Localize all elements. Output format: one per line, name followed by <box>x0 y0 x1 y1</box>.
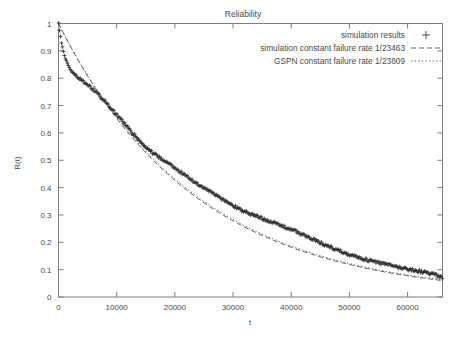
x-tick-label: 20000 <box>164 303 187 312</box>
y-tick-label: 0.2 <box>40 238 52 247</box>
y-tick-label: 0.8 <box>40 74 52 83</box>
y-tick-label: 0 <box>47 293 52 302</box>
y-tick-label: 0.4 <box>40 184 52 193</box>
x-tick-label: 0 <box>56 303 61 312</box>
x-tick-label: 60000 <box>396 303 419 312</box>
x-tick-label: 10000 <box>106 303 129 312</box>
legend-label-2: GSPN constant failure rate 1/23809 <box>274 56 405 66</box>
legend-label-1: simulation constant failure rate 1/23463 <box>260 43 405 53</box>
chart-title: Reliability <box>225 9 262 19</box>
y-tick-label: 0.6 <box>40 129 52 138</box>
y-tick-label: 0.1 <box>40 266 52 275</box>
x-tick-label: 40000 <box>280 303 303 312</box>
y-tick-label: 0.9 <box>40 47 52 56</box>
y-tick-label: 0.3 <box>40 211 52 220</box>
legend-label-0: simulation results <box>341 30 405 40</box>
x-tick-label: 30000 <box>222 303 245 312</box>
chart-canvas: Reliability 00.10.20.30.40.50.60.70.80.9… <box>0 0 468 340</box>
y-tick-label: 0.7 <box>40 102 52 111</box>
y-tick-label: 0.5 <box>40 156 52 165</box>
x-tick-label: 50000 <box>338 303 361 312</box>
y-axis-label: R(t) <box>13 156 22 170</box>
reliability-plot: Reliability 00.10.20.30.40.50.60.70.80.9… <box>0 0 468 340</box>
y-tick-label: 1 <box>47 20 52 29</box>
